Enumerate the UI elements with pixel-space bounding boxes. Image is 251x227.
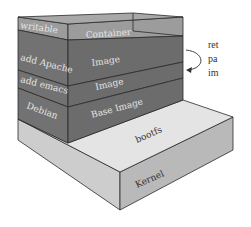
- annotation-line-2: pa: [208, 53, 218, 64]
- curved-arrow-icon: [186, 50, 201, 73]
- annotation-line-1: ret: [208, 39, 219, 50]
- docker-layers-diagram: writable add Apache add emacs Debian Con…: [0, 0, 251, 227]
- annotation-line-3: im: [208, 67, 219, 78]
